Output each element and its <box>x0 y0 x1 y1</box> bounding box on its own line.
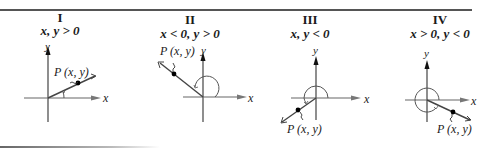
point-p-dot <box>296 108 301 113</box>
x-axis-label: x <box>103 91 108 106</box>
point-label: P (x, y) <box>287 122 322 137</box>
panel-quadrant-2: II x < 0, y > 0 y P (x, y) <box>120 0 245 148</box>
x-axis-arrow-icon <box>460 98 470 103</box>
panel-quadrant-1: I x, y > 0 y x P (x, y) <box>0 0 120 148</box>
point-p-dot <box>76 81 81 86</box>
point-label: P (x, y) <box>54 65 89 80</box>
x-axis-label-3: x <box>364 92 369 107</box>
y-axis-label: y <box>313 44 318 56</box>
x-axis-arrow-icon <box>351 96 361 101</box>
y-axis-arrow-icon <box>314 56 319 65</box>
x-axis-arrow-icon <box>91 96 101 101</box>
x-axis-label-2: x <box>248 91 253 106</box>
y-axis-arrow-icon <box>425 60 430 69</box>
y-axis-label: y <box>45 40 50 52</box>
panel-quadrant-3: III x, y < 0 y P (x, y) <box>255 0 370 148</box>
x-axis-arrow-icon <box>237 95 247 100</box>
panel-quadrant-4: IV x > 0, y < 0 y x P (x, y) <box>375 0 483 148</box>
y-axis-label: y <box>201 44 206 56</box>
x-axis-label: x <box>471 94 476 109</box>
point-label: P (x, y) <box>160 44 195 59</box>
quadrant-2-diagram <box>120 0 245 148</box>
y-axis-label: y <box>424 47 429 59</box>
point-p-dot <box>451 110 456 115</box>
point-p-dot <box>172 72 177 77</box>
point-label: P (x, y) <box>437 122 472 137</box>
